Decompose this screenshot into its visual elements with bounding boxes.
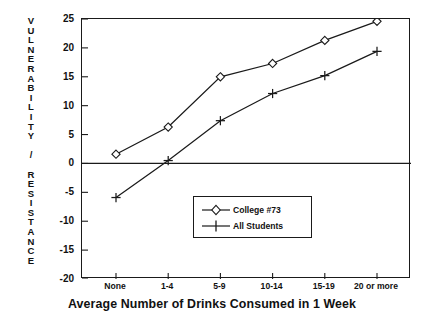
x-axis-tick-label: 10-14 <box>261 281 283 291</box>
y-axis-title-letter: / <box>30 150 33 160</box>
plot-lines <box>82 19 411 279</box>
plot-area <box>81 18 410 278</box>
legend-item: College #73 <box>194 202 311 218</box>
data-point-diamond <box>321 36 329 44</box>
y-axis-tick-label: -5 <box>44 186 74 197</box>
plus-marker-icon <box>201 219 231 233</box>
legend-label-college: College #73 <box>233 205 281 215</box>
diamond-marker-icon <box>112 150 120 158</box>
y-axis-tick-label: 20 <box>44 41 74 52</box>
x-axis-tick-label: None <box>104 281 125 291</box>
data-point-plus <box>320 71 329 80</box>
data-point-diamond <box>112 150 120 158</box>
data-point-diamond <box>373 19 381 25</box>
x-axis-tick-label: 15-19 <box>313 281 335 291</box>
x-axis-tick-labels: None1-45-910-1415-1920 or more <box>81 281 410 295</box>
x-axis-tick-label: 5-9 <box>213 281 225 291</box>
y-axis-tick-label: 25 <box>44 13 74 24</box>
y-axis-tick-label: -15 <box>44 244 74 255</box>
diamond-marker-icon <box>321 36 329 44</box>
series-line-college-73 <box>116 21 377 154</box>
x-axis-tick-label: 20 or more <box>354 281 398 291</box>
chart-figure: VULNERABILITY/RESISTANCE 2520151050-5-10… <box>0 0 424 331</box>
legend-item: All Students <box>194 218 311 234</box>
diamond-marker-icon <box>201 203 231 217</box>
y-axis-title-letter: Y <box>28 131 34 141</box>
y-axis-title-letter: E <box>28 256 34 266</box>
chart-legend: College #73 All Students <box>193 196 312 238</box>
y-axis-tick-labels: 2520151050-5-10-15-20 <box>44 0 74 331</box>
data-point-plus <box>268 89 277 98</box>
x-axis-title: Average Number of Drinks Consumed in 1 W… <box>0 297 424 311</box>
y-axis-tick-label: 5 <box>44 128 74 139</box>
legend-label-all-students: All Students <box>233 221 283 231</box>
data-point-diamond <box>269 59 277 67</box>
y-axis-tick-label: 0 <box>44 157 74 168</box>
y-axis-tick-label: 10 <box>44 99 74 110</box>
x-axis-tick-label: 1-4 <box>161 281 173 291</box>
series-line-all-students <box>116 51 377 197</box>
data-point-plus <box>372 47 381 56</box>
diamond-marker-icon <box>373 19 381 25</box>
y-axis-title: VULNERABILITY/RESISTANCE <box>24 16 38 282</box>
y-axis-tick-label: -10 <box>44 215 74 226</box>
y-axis-tick-label: 15 <box>44 70 74 81</box>
data-point-plus <box>111 193 120 202</box>
y-axis-tick-label: -20 <box>44 273 74 284</box>
diamond-marker-icon <box>269 59 277 67</box>
